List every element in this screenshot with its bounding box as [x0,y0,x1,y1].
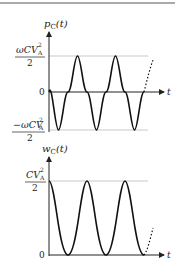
svg-text:2: 2 [39,116,43,123]
svg-text:2: 2 [38,41,42,48]
y-axis-label: pC(t) [44,18,68,31]
svg-text:A: A [38,124,44,131]
zero-label: 0 [39,250,45,260]
power-curve-continuation [144,60,153,92]
svg-text:CV: CV [26,169,41,180]
max-energy-label: CV 2 A 2 [25,166,46,193]
svg-text:2: 2 [40,166,44,173]
svg-text:A: A [39,174,45,181]
svg-text:A: A [37,49,43,56]
energy-curve [49,181,144,255]
x-axis-label: t [167,87,171,97]
power-curve [49,56,144,130]
svg-text:ωCV: ωCV [16,44,39,55]
figure: pC(t) t ωCV 2 A 2 0 −ωCV 2 A 2 wC(t) [0,0,175,270]
max-power-label: ωCV 2 A 2 [15,41,45,68]
y-axis-label: wC(t) [42,143,68,156]
svg-text:2: 2 [27,133,33,143]
x-axis-label: t [167,250,171,260]
zero-label: 0 [39,87,45,97]
power-plot: pC(t) t ωCV 2 A 2 0 −ωCV 2 A 2 [12,18,171,143]
svg-text:2: 2 [32,183,38,193]
energy-plot: wC(t) t CV 2 A 2 0 [25,143,171,260]
energy-curve-continuation [144,228,153,255]
svg-text:2: 2 [27,58,33,68]
min-power-label: −ωCV 2 A 2 [12,116,45,143]
